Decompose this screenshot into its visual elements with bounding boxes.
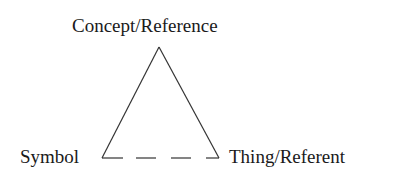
edge-concept-thing xyxy=(159,47,219,158)
edge-concept-symbol xyxy=(102,47,159,158)
semiotic-triangle xyxy=(0,0,393,186)
